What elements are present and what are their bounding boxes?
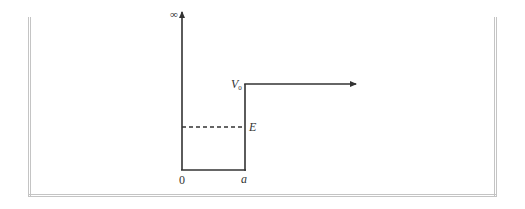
energy-label: E	[249, 121, 256, 133]
v0-label: V0	[231, 78, 242, 92]
potential-diagram	[0, 0, 525, 209]
width-a-label: a	[241, 173, 247, 185]
infinity-label: ∞	[170, 9, 178, 20]
origin-label: 0	[179, 174, 185, 186]
v0-label-subscript: 0	[238, 84, 242, 92]
